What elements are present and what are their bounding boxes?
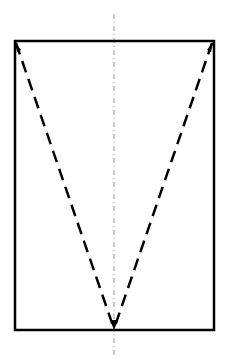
arrowhead-bottom-center-icon: [110, 320, 118, 330]
right-dashed-diagonal: [115, 43, 212, 326]
arrowhead-top-right-icon: [207, 42, 213, 52]
left-dashed-diagonal: [16, 43, 113, 326]
diagram-canvas: [0, 0, 225, 361]
